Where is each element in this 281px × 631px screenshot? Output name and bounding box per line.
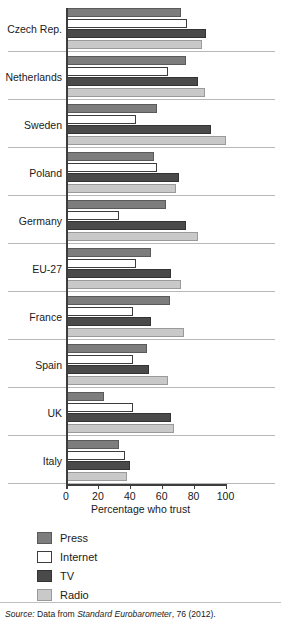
source-note: Source: Data from Standard Eurobarometer…: [5, 609, 281, 619]
bar-radio-germany: [66, 232, 198, 241]
bar-internet-germany: [66, 211, 119, 220]
category-separator: [8, 291, 275, 292]
chart-container: Czech Rep.NetherlandsSwedenPolandGermany…: [0, 0, 281, 631]
category-separator: [8, 147, 275, 148]
bar-tv-poland: [66, 173, 179, 182]
category-label-france: France: [0, 312, 62, 323]
source-publication: Standard Eurobarometer: [77, 609, 172, 619]
category-label-italy: Italy: [0, 456, 62, 467]
bar-radio-sweden: [66, 136, 226, 145]
bar-press-spain: [66, 344, 147, 353]
legend-swatch-press-icon: [37, 532, 52, 544]
bar-tv-spain: [66, 365, 149, 374]
x-axis-tick-20: [98, 484, 100, 489]
category-separator: [8, 51, 275, 52]
bar-press-france: [66, 296, 170, 305]
plot-area: Czech Rep.NetherlandsSwedenPolandGermany…: [0, 0, 281, 500]
bar-internet-france: [66, 307, 133, 316]
bar-internet-eu-27: [66, 259, 136, 268]
bar-press-sweden: [66, 104, 157, 113]
bar-radio-france: [66, 328, 184, 337]
category-label-uk: UK: [0, 408, 62, 419]
bar-radio-netherlands: [66, 88, 205, 97]
category-separator: [8, 195, 275, 196]
category-separator: [8, 435, 275, 436]
legend-swatch-radio-icon: [37, 589, 52, 601]
x-axis-line: [66, 484, 226, 486]
x-axis-tick-80: [194, 484, 196, 489]
x-axis-title: Percentage who trust: [0, 503, 281, 515]
source-prefix: Source:: [5, 609, 35, 619]
legend-label-radio: Radio: [60, 589, 89, 601]
bar-radio-uk: [66, 424, 174, 433]
legend-label-press: Press: [60, 532, 88, 544]
bar-tv-uk: [66, 413, 171, 422]
x-axis-tick-40: [130, 484, 132, 489]
x-axis-tick-60: [162, 484, 164, 489]
bar-internet-poland: [66, 163, 157, 172]
bar-tv-france: [66, 317, 151, 326]
x-axis-tick-label-100: 100: [206, 490, 246, 502]
category-label-eu-27: EU-27: [0, 264, 62, 275]
bar-tv-eu-27: [66, 269, 171, 278]
category-label-poland: Poland: [0, 168, 62, 179]
bar-press-germany: [66, 200, 166, 209]
category-separator: [8, 387, 275, 388]
y-axis-line: [66, 8, 68, 484]
bar-tv-germany: [66, 221, 186, 230]
legend-swatch-internet-icon: [37, 551, 52, 563]
source-text-before: Data from: [37, 609, 75, 619]
bar-internet-italy: [66, 451, 125, 460]
bar-radio-czech-rep: [66, 40, 202, 49]
x-axis-tick-0: [66, 484, 68, 489]
bar-press-netherlands: [66, 56, 186, 65]
bar-press-czech-rep: [66, 8, 181, 17]
bar-radio-eu-27: [66, 280, 181, 289]
bar-tv-sweden: [66, 125, 211, 134]
source-divider: [0, 602, 281, 603]
category-separator: [8, 99, 275, 100]
bar-press-eu-27: [66, 248, 151, 257]
source-text-after: , 76 (2012).: [172, 609, 216, 619]
legend-swatch-tv-icon: [37, 570, 52, 582]
bar-tv-italy: [66, 461, 130, 470]
chart-legend: PressInternetTVRadio: [0, 528, 281, 604]
legend-label-tv: TV: [60, 570, 74, 582]
bar-radio-spain: [66, 376, 168, 385]
bar-radio-poland: [66, 184, 176, 193]
bar-press-poland: [66, 152, 154, 161]
legend-label-internet: Internet: [60, 551, 97, 563]
bar-internet-czech-rep: [66, 19, 187, 28]
bar-tv-czech-rep: [66, 29, 206, 38]
legend-item-press[interactable]: Press: [0, 528, 281, 547]
category-label-sweden: Sweden: [0, 120, 62, 131]
category-separator: [8, 339, 275, 340]
legend-item-tv[interactable]: TV: [0, 566, 281, 585]
bar-internet-spain: [66, 355, 133, 364]
bar-internet-sweden: [66, 115, 136, 124]
bar-press-uk: [66, 392, 104, 401]
x-axis-tick-100: [226, 484, 228, 489]
bar-internet-netherlands: [66, 67, 168, 76]
bar-internet-uk: [66, 403, 133, 412]
category-label-czech-rep: Czech Rep.: [0, 24, 62, 35]
category-separator: [8, 243, 275, 244]
category-label-spain: Spain: [0, 360, 62, 371]
category-label-germany: Germany: [0, 216, 62, 227]
bar-radio-italy: [66, 472, 127, 481]
bar-press-italy: [66, 440, 119, 449]
legend-item-internet[interactable]: Internet: [0, 547, 281, 566]
category-label-netherlands: Netherlands: [0, 72, 62, 83]
bar-tv-netherlands: [66, 77, 198, 86]
